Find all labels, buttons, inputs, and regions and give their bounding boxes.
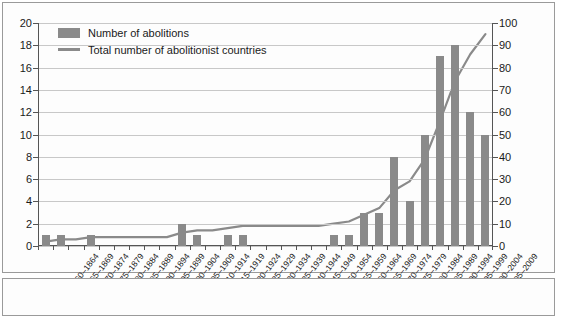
bar bbox=[481, 135, 489, 247]
bar bbox=[406, 201, 414, 246]
y-right-tickmark bbox=[493, 224, 498, 225]
y-right-tickmark bbox=[493, 135, 498, 136]
bar bbox=[178, 224, 186, 246]
y-left-tick-label: 2 bbox=[2, 218, 32, 229]
y-left-tick-label: 14 bbox=[2, 84, 32, 95]
y-right-tickmark bbox=[493, 179, 498, 180]
y-right-tick-label: 30 bbox=[499, 174, 533, 185]
bar bbox=[375, 213, 383, 246]
y-right-tick-label: 90 bbox=[499, 40, 533, 51]
bar bbox=[466, 112, 474, 246]
y-right-tickmark bbox=[493, 23, 498, 24]
y-axis-right bbox=[492, 23, 493, 246]
y-right-tickmark bbox=[493, 68, 498, 69]
bar bbox=[224, 235, 232, 246]
y-right-tick-label: 50 bbox=[499, 129, 533, 140]
gridline bbox=[38, 23, 493, 24]
chart-legend: Number of abolitions Total number of abo… bbox=[58, 25, 267, 59]
y-right-tickmark bbox=[493, 45, 498, 46]
gridline bbox=[38, 112, 493, 113]
y-right-tick-label: 0 bbox=[499, 241, 533, 252]
caption-frame bbox=[2, 278, 555, 316]
y-left-tick-label: 20 bbox=[2, 18, 32, 29]
gridline bbox=[38, 90, 493, 91]
y-right-tickmark bbox=[493, 246, 498, 247]
y-right-tickmark bbox=[493, 90, 498, 91]
figure-frame: 024681012141618200102030405060708090100 … bbox=[2, 2, 555, 273]
legend-label-abolitions: Number of abolitions bbox=[88, 27, 189, 39]
y-right-tickmark bbox=[493, 112, 498, 113]
bar bbox=[87, 235, 95, 246]
legend-item-total-countries: Total number of abolitionist countries bbox=[58, 42, 267, 57]
bar bbox=[57, 235, 65, 246]
bar bbox=[421, 135, 429, 247]
y-right-tick-label: 100 bbox=[499, 18, 533, 29]
y-right-tick-label: 70 bbox=[499, 84, 533, 95]
gridline bbox=[38, 68, 493, 69]
y-right-tick-label: 20 bbox=[499, 196, 533, 207]
bar bbox=[360, 213, 368, 246]
legend-label-total-countries: Total number of abolitionist countries bbox=[88, 44, 267, 56]
y-right-tick-label: 60 bbox=[499, 107, 533, 118]
bar bbox=[330, 235, 338, 246]
y-left-tick-label: 10 bbox=[2, 129, 32, 140]
y-left-tick-label: 6 bbox=[2, 174, 32, 185]
bar bbox=[345, 235, 353, 246]
bar bbox=[436, 56, 444, 246]
abolitionist-countries-line bbox=[46, 34, 486, 241]
line-swatch-icon bbox=[58, 48, 80, 51]
y-right-tickmark bbox=[493, 157, 498, 158]
y-left-tick-label: 4 bbox=[2, 196, 32, 207]
y-left-tick-label: 12 bbox=[2, 107, 32, 118]
y-right-tickmark bbox=[493, 201, 498, 202]
legend-item-abolitions: Number of abolitions bbox=[58, 25, 267, 40]
chart-page: 024681012141618200102030405060708090100 … bbox=[0, 0, 561, 319]
y-right-tick-label: 10 bbox=[499, 218, 533, 229]
bar bbox=[390, 157, 398, 246]
y-left-tick-label: 8 bbox=[2, 151, 32, 162]
bar-swatch-icon bbox=[58, 28, 80, 38]
bar bbox=[193, 235, 201, 246]
bar bbox=[239, 235, 247, 246]
bar bbox=[42, 235, 50, 246]
y-right-tick-label: 80 bbox=[499, 62, 533, 73]
bar bbox=[451, 45, 459, 246]
y-left-tick-label: 16 bbox=[2, 62, 32, 73]
y-right-tick-label: 40 bbox=[499, 151, 533, 162]
y-left-tick-label: 0 bbox=[2, 241, 32, 252]
y-axis-left bbox=[38, 23, 39, 246]
y-left-tick-label: 18 bbox=[2, 40, 32, 51]
